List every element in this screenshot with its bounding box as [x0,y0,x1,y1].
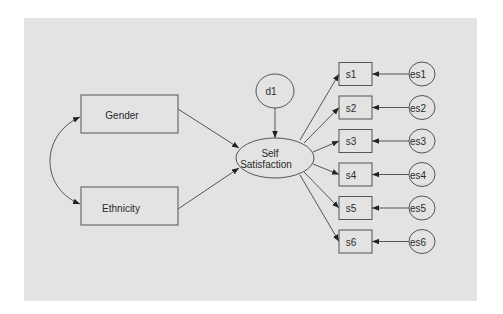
s6-label: s6 [346,237,357,248]
self-satisfaction-label-line2: Satisfaction [240,159,292,170]
es1-label: es1 [410,69,427,80]
d1-label: d1 [265,86,277,97]
ethnicity-label: Ethnicity [102,203,140,214]
es2-label: es2 [410,103,427,114]
es6-label: es6 [410,237,427,248]
es5-label: es5 [410,203,427,214]
gender-label: Gender [105,110,139,121]
s5-label: s5 [346,203,357,214]
s1-label: s1 [346,69,357,80]
sem-diagram: Gender Ethnicity d1 Self Satisfaction s1… [0,0,503,314]
self-satisfaction-label-line1: Self [261,148,278,159]
s2-label: s2 [346,103,357,114]
s4-label: s4 [346,170,357,181]
es4-label: es4 [410,170,427,181]
s3-label: s3 [346,136,357,147]
diagram-canvas: Gender Ethnicity d1 Self Satisfaction s1… [0,0,503,314]
es3-label: es3 [410,136,427,147]
